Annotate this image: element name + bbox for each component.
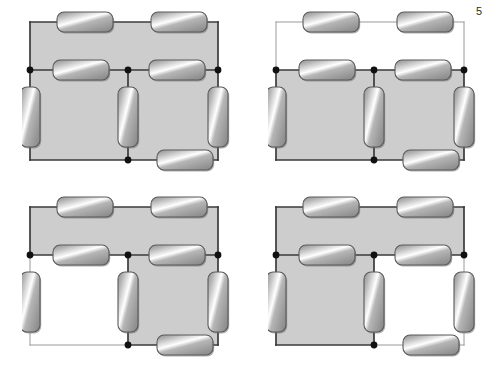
resistor-left-branch[interactable] [268, 272, 287, 334]
resistor-left-branch[interactable] [268, 87, 287, 149]
node-left-middle [27, 67, 34, 74]
resistor-right-branch[interactable] [208, 87, 229, 149]
resistor-left-branch[interactable] [22, 272, 41, 334]
circuit-top-right [268, 8, 480, 184]
resistor-top-left[interactable] [303, 12, 360, 34]
node-center-bottom [371, 342, 378, 349]
shaded-loop-bottom-left [276, 255, 374, 345]
resistor-bottom-right[interactable] [403, 150, 460, 172]
resistor-middle-right[interactable] [149, 245, 206, 267]
resistor-bottom-right[interactable] [157, 335, 214, 357]
resistor-middle-left[interactable] [299, 245, 356, 267]
node-right-middle [461, 67, 468, 74]
resistor-top-right[interactable] [397, 12, 454, 34]
resistor-top-left[interactable] [57, 197, 114, 219]
node-center-bottom [125, 157, 132, 164]
resistor-right-branch[interactable] [454, 272, 475, 334]
resistor-center-branch[interactable] [118, 87, 139, 149]
circuit-bottom-right [268, 193, 480, 369]
figure-canvas: 5 [0, 0, 490, 373]
shaded-loop-bottom-right [374, 70, 464, 160]
resistor-center-branch[interactable] [118, 272, 139, 334]
node-center-middle [371, 67, 378, 74]
node-left-middle [273, 67, 280, 74]
resistor-top-right[interactable] [151, 197, 208, 219]
node-center-bottom [125, 342, 132, 349]
node-center-middle [371, 252, 378, 259]
node-center-middle [125, 252, 132, 259]
resistor-right-branch[interactable] [208, 272, 229, 334]
resistor-right-branch[interactable] [454, 87, 475, 149]
node-left-middle [27, 252, 34, 259]
resistor-top-left[interactable] [57, 12, 114, 34]
circuit-top-left [22, 8, 234, 184]
circuit-bottom-left [22, 193, 234, 369]
node-left-middle [273, 252, 280, 259]
resistor-center-branch[interactable] [364, 87, 385, 149]
shaded-loop-bottom-right [128, 255, 218, 345]
node-right-middle [461, 252, 468, 259]
resistor-middle-right[interactable] [395, 245, 452, 267]
resistor-bottom-right[interactable] [403, 335, 460, 357]
resistor-middle-left[interactable] [53, 245, 110, 267]
shaded-loop-bottom-left [276, 70, 374, 160]
resistor-top-right[interactable] [397, 197, 454, 219]
resistor-middle-right[interactable] [395, 60, 452, 82]
node-right-middle [215, 67, 222, 74]
resistor-middle-left[interactable] [53, 60, 110, 82]
node-center-middle [125, 67, 132, 74]
resistor-top-right[interactable] [151, 12, 208, 34]
resistor-middle-right[interactable] [149, 60, 206, 82]
resistor-center-branch[interactable] [364, 272, 385, 334]
resistor-left-branch[interactable] [22, 87, 41, 149]
node-right-middle [215, 252, 222, 259]
node-center-bottom [371, 157, 378, 164]
resistor-middle-left[interactable] [299, 60, 356, 82]
shaded-loop-bottom-right [128, 70, 218, 160]
resistor-bottom-right[interactable] [157, 150, 214, 172]
resistor-top-left[interactable] [303, 197, 360, 219]
shaded-loop-bottom-left [30, 70, 128, 160]
